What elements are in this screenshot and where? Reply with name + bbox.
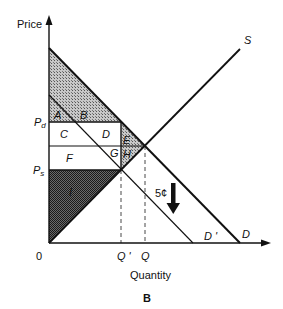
ps-label: Ps	[33, 164, 44, 178]
y-axis-label: Price	[17, 18, 42, 30]
region-f-label: F	[66, 152, 74, 164]
q-prime-label: Q '	[117, 250, 132, 262]
pd-label: Pd	[34, 116, 46, 130]
tax-arrow-down-icon	[167, 183, 181, 214]
panel-label: B	[143, 292, 151, 304]
region-b-label: B	[80, 109, 87, 121]
region-i-label: I	[69, 186, 72, 198]
x-axis-arrow-icon	[261, 240, 271, 247]
region-a-label: A	[53, 109, 61, 121]
supply-label: S	[244, 34, 252, 46]
region-e-label: E	[123, 134, 131, 146]
tax-label: 5¢	[155, 187, 167, 199]
q-label: Q	[141, 250, 150, 262]
demand-label: D	[242, 228, 250, 240]
x-axis-label: Quantity	[130, 269, 171, 281]
region-d-label: D	[102, 128, 110, 140]
origin-label: 0	[36, 250, 42, 262]
region-h-label: H	[123, 148, 131, 160]
y-axis-arrow-icon	[46, 15, 53, 25]
shifted-demand-label: D '	[204, 230, 218, 242]
region-g-label: G	[110, 147, 119, 159]
tax-incidence-diagram: Price Quantity 0 B Pd Ps Q ' Q S D D ' A…	[0, 0, 283, 309]
region-c-label: C	[60, 128, 68, 140]
